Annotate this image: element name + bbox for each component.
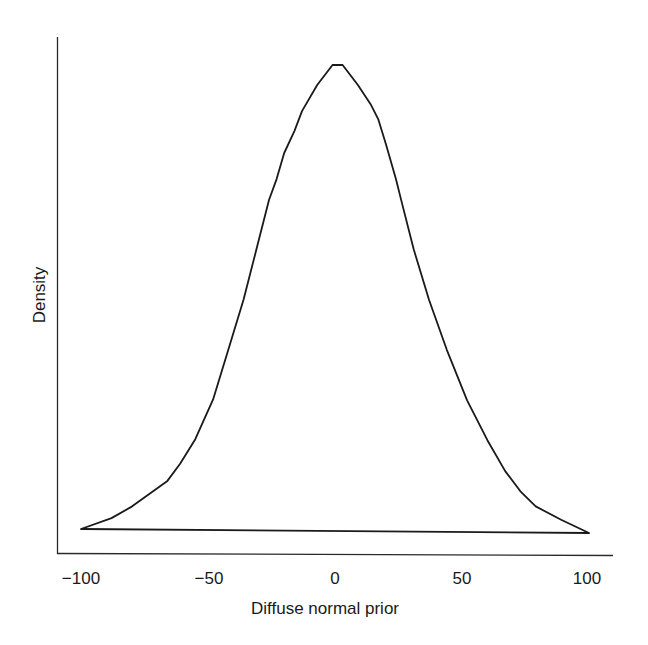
x-tick-label: −50	[195, 569, 224, 588]
y-axis-title: Density	[30, 266, 49, 323]
x-tick-labels: −100 −50 0 50 100	[62, 569, 601, 588]
x-axis-title: Diffuse normal prior	[251, 599, 399, 618]
density-curve	[81, 65, 589, 533]
x-tick-label: 50	[453, 569, 472, 588]
density-chart: −100 −50 0 50 100 Diffuse normal prior D…	[0, 0, 648, 645]
x-tick-label: 0	[330, 569, 339, 588]
x-tick-label: 100	[573, 569, 601, 588]
x-axis-line	[57, 554, 613, 556]
x-tick-label: −100	[62, 569, 100, 588]
